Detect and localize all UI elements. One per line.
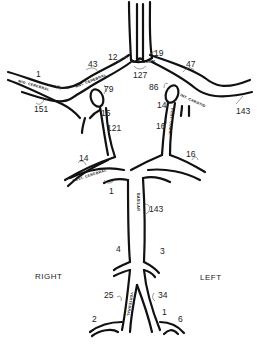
measure-right-vertebral: 25 [104,290,114,300]
label-post-comm: POST. COMM. [168,108,174,135]
right-branch-upper-a [114,262,130,270]
right-branch-lower-b [92,330,118,336]
left-vertebral-outer [144,270,160,330]
label-int-carotid: INT. CAROTID [180,93,207,108]
vessel-drawing: MID. CEREBRAL ANT. CEREBRAL ANT. COMM. I… [0,0,267,347]
measure-ant-comm: 127 [133,70,147,80]
measure-left-int-carotid: 86 [149,82,159,92]
measure-right-mid-cerebral: 151 [34,104,48,114]
measure-right-branch-lower: 2 [92,314,97,324]
measure-left-branch-upper: 3 [160,246,165,256]
measure-left-ant-cerebral: 47 [186,59,196,69]
right-stub-left [82,118,85,133]
measure-left-branch-mid: 1 [162,307,167,317]
right-ant-cerebral-trunk-outer [129,2,131,60]
measure-left-post-cerebral: 16 [186,149,196,159]
right-branch-upper-b [114,270,130,276]
measure-right-mid-cerebral-proximal: 1 [36,69,41,79]
left-ant-cerebral-trunk-outer [150,2,152,58]
label-ant-comm: ANT. COMM. [132,60,156,64]
measure-right-ant-cerebral-distal: 12 [108,52,118,62]
measure-right-post-comm: 121 [107,123,121,133]
measure-right-int-carotid-base: 15 [101,108,111,118]
leader-143-left-mid [236,96,243,104]
measure-left-ant-cerebral-distal: 19 [154,48,164,58]
measure-basilar: 143 [149,204,163,214]
basilar-right [143,178,145,262]
measure-right-int-carotid: 79 [104,84,114,94]
leader-34 [153,293,155,301]
measure-right-ant-cerebral: 43 [88,59,98,69]
leader-25 [117,296,121,301]
measure-right-branch-upper: 4 [116,244,121,254]
basilar-left [128,180,130,262]
left-stub-1 [181,106,182,116]
basilar-top-left [104,179,128,183]
leader-127 [134,66,146,69]
post-junction-left [131,155,162,170]
measure-left-int-carotid-base: 14 [157,100,167,110]
label-basilar: BASILAR [136,193,140,211]
label-right-side: RIGHT [35,272,62,281]
left-ant-mid-cerebral-upper [150,55,250,86]
measure-left-post-comm: 16 [156,121,166,131]
circle-of-willis-diagram: MID. CEREBRAL ANT. CEREBRAL ANT. COMM. I… [0,0,267,347]
measure-basilar-top: 1 [109,186,114,196]
basilar-top-right [143,177,170,182]
left-vertebral-inner [137,285,152,332]
measure-left-branch-lower: 6 [178,314,183,324]
right-stub-right [90,110,100,118]
measure-left-mid-cerebral: 143 [236,106,250,116]
measure-right-post-cerebral: 14 [79,153,89,163]
leader-86 [164,83,168,88]
label-left-side: LEFT [200,273,222,282]
measure-left-vertebral: 34 [158,290,168,300]
left-branch-lower-b [164,330,178,334]
